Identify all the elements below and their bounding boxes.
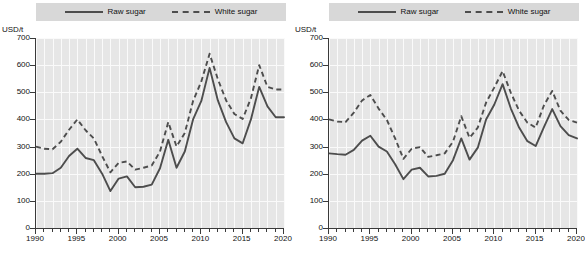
legend-label-white-sugar: White sugar <box>508 8 551 16</box>
x-axis-tick-major <box>328 229 329 234</box>
legend-item-raw-sugar: Raw sugar <box>358 8 439 16</box>
x-axis-tick-minor <box>176 229 177 232</box>
y-axis-tick-label: 700 <box>17 34 30 42</box>
x-axis-tick-minor <box>543 229 544 232</box>
y-axis-tick-label: 200 <box>17 170 30 178</box>
y-axis-tick <box>323 174 328 175</box>
legend-label-raw-sugar: Raw sugar <box>401 8 439 16</box>
x-axis-tick-minor <box>485 229 486 232</box>
x-axis-tick-minor <box>43 229 44 232</box>
x-axis-tick-minor <box>469 229 470 232</box>
x-axis-tick-minor <box>151 229 152 232</box>
dashed-line-swatch-icon <box>465 11 503 13</box>
grid-line-vertical <box>577 38 578 228</box>
x-axis-tick-minor <box>167 229 168 232</box>
sugar-prices-panel-left: Raw sugar White sugar USD/t 010020030040… <box>0 0 292 270</box>
solid-line-swatch-icon <box>65 11 103 13</box>
x-axis-tick-minor <box>275 229 276 232</box>
y-axis-tick <box>30 92 35 93</box>
x-axis-tick-minor <box>258 229 259 232</box>
line-raw-sugar <box>329 84 577 179</box>
y-axis-tick <box>323 201 328 202</box>
x-axis-tick-major <box>369 229 370 234</box>
x-axis-tick-minor <box>568 229 569 232</box>
y-axis-tick <box>323 38 328 39</box>
y-axis-tick <box>30 119 35 120</box>
y-axis-tick <box>30 174 35 175</box>
legend-label-raw-sugar: Raw sugar <box>108 8 146 16</box>
x-axis-tick-minor <box>233 229 234 232</box>
x-axis-tick-minor <box>93 229 94 232</box>
x-axis-tick-minor <box>60 229 61 232</box>
x-axis-tick-minor <box>126 229 127 232</box>
x-axis-tick-minor <box>402 229 403 232</box>
y-axis-tick <box>323 147 328 148</box>
line-raw-sugar <box>36 68 284 191</box>
x-axis-tick-major <box>493 229 494 234</box>
x-axis-tick-minor <box>336 229 337 232</box>
x-axis-tick-label: 2010 <box>191 235 209 243</box>
x-axis-tick-minor <box>427 229 428 232</box>
sugar-prices-panel-right: Raw sugar White sugar USD/t 010020030040… <box>293 0 585 270</box>
legend-item-white-sugar: White sugar <box>172 8 258 16</box>
x-axis-tick-major <box>535 229 536 234</box>
legend-right: Raw sugar White sugar <box>329 3 579 21</box>
x-axis-tick-label: 1990 <box>319 235 337 243</box>
x-axis-tick-minor <box>435 229 436 232</box>
x-axis-tick-minor <box>134 229 135 232</box>
x-axis-tick-minor <box>109 229 110 232</box>
x-axis-tick-major <box>76 229 77 234</box>
line-white-sugar <box>36 54 284 173</box>
legend-item-white-sugar: White sugar <box>465 8 551 16</box>
x-axis-tick-minor <box>460 229 461 232</box>
x-axis-tick-label: 2005 <box>443 235 461 243</box>
x-axis-tick-minor <box>361 229 362 232</box>
y-axis-tick-label: 200 <box>310 170 323 178</box>
figure-container: Raw sugar White sugar USD/t 010020030040… <box>0 0 585 270</box>
y-axis-tick-label: 400 <box>17 115 30 123</box>
x-axis-tick-label: 2015 <box>526 235 544 243</box>
x-axis-tick-major <box>242 229 243 234</box>
x-axis-tick-major <box>283 229 284 234</box>
x-axis-tick-label: 1995 <box>67 235 85 243</box>
x-axis-tick-label: 2015 <box>233 235 251 243</box>
solid-line-swatch-icon <box>358 11 396 13</box>
x-axis-tick-minor <box>68 229 69 232</box>
y-axis-tick-label: 500 <box>17 88 30 96</box>
y-axis-tick-label: 700 <box>310 34 323 42</box>
y-axis-tick <box>30 38 35 39</box>
y-axis-tick <box>30 201 35 202</box>
y-axis-tick <box>323 65 328 66</box>
x-axis-tick-minor <box>559 229 560 232</box>
y-axis-tick-label: 300 <box>17 143 30 151</box>
x-axis-tick-minor <box>477 229 478 232</box>
x-axis-tick-minor <box>386 229 387 232</box>
x-axis-tick-label: 1990 <box>26 235 44 243</box>
x-axis-tick-minor <box>250 229 251 232</box>
x-axis-tick-major <box>411 229 412 234</box>
x-axis-tick-major <box>35 229 36 234</box>
x-axis-tick-label: 2005 <box>150 235 168 243</box>
x-axis-tick-label: 2020 <box>274 235 292 243</box>
x-axis-tick-major <box>118 229 119 234</box>
legend-label-white-sugar: White sugar <box>215 8 258 16</box>
x-axis-tick-minor <box>526 229 527 232</box>
y-axis-tick-label: 600 <box>17 61 30 69</box>
legend-left: Raw sugar White sugar <box>36 3 286 21</box>
x-axis-tick-minor <box>378 229 379 232</box>
y-axis-tick-label: 400 <box>310 115 323 123</box>
x-axis-tick-label: 2000 <box>109 235 127 243</box>
y-axis-line <box>328 38 329 228</box>
plot-area-right <box>329 38 577 228</box>
plot-area-left <box>36 38 284 228</box>
x-axis-tick-minor <box>184 229 185 232</box>
legend-item-raw-sugar: Raw sugar <box>65 8 146 16</box>
line-white-sugar <box>329 71 577 159</box>
y-axis-tick <box>323 119 328 120</box>
x-axis-tick-minor <box>217 229 218 232</box>
x-axis-tick-label: 2000 <box>402 235 420 243</box>
x-axis-tick-major <box>159 229 160 234</box>
x-axis-tick-minor <box>444 229 445 232</box>
x-axis-tick-minor <box>502 229 503 232</box>
x-axis-tick-minor <box>85 229 86 232</box>
